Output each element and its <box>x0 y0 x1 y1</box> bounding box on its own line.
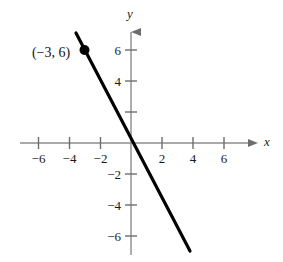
plotted-point-marker <box>80 45 90 55</box>
plotted-line <box>76 33 190 251</box>
coordinate-plane-svg <box>0 0 283 262</box>
graph-figure: (−3, 6) x y −6 −4 −2 2 4 6 6 4 −2 −4 −6 <box>0 0 283 262</box>
